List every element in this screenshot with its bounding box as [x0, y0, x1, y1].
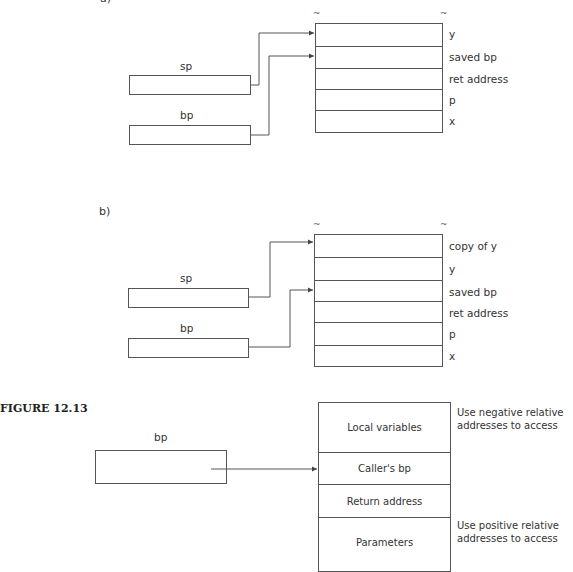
arrow-bp-to-saved-bp [249, 290, 313, 347]
arrow-sp-to-y [251, 33, 314, 85]
arrow-sp-to-copy-of-y [249, 242, 313, 297]
arrow-bp-to-saved-bp [251, 56, 314, 135]
